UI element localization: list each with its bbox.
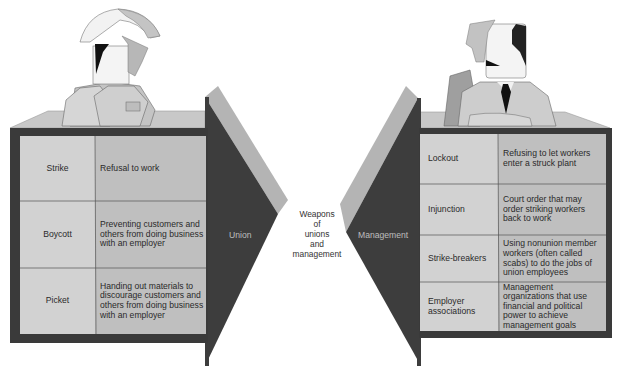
diagram-title: Weapons of unions and management	[286, 209, 348, 259]
management-term-employer-associations: Employer associations	[420, 282, 498, 331]
management-desc-employer-associations: Management organizations that use financ…	[499, 282, 606, 331]
title-line: and	[286, 239, 348, 249]
management-desc-injunction: Court order that may order striking work…	[499, 184, 606, 235]
management-term-injunction: Injunction	[420, 184, 498, 235]
union-desc-strike: Refusal to work	[96, 136, 206, 201]
management-arrow-label: Management	[358, 230, 408, 240]
union-term-picket: Picket	[20, 268, 95, 334]
union-desc-picket: Handing out materials to discourage cust…	[96, 268, 206, 334]
union-worker-figure	[62, 9, 160, 126]
union-desc-boycott: Preventing customers and others from doi…	[96, 201, 206, 268]
title-line: management	[286, 249, 348, 259]
union-term-boycott: Boycott	[20, 201, 95, 268]
management-term-strike-breakers: Strike-breakers	[420, 235, 498, 282]
management-desc-strike-breakers: Using nonunion member workers (often cal…	[499, 235, 606, 282]
management-desc-lockout: Refusing to let workers enter a struck p…	[499, 134, 606, 184]
union-arrow-label: Union	[229, 230, 251, 240]
manager-figure	[444, 20, 556, 126]
management-term-lockout: Lockout	[420, 134, 498, 184]
title-line: unions	[286, 229, 348, 239]
title-line: of	[286, 219, 348, 229]
title-line: Weapons	[286, 209, 348, 219]
union-term-strike: Strike	[20, 136, 95, 201]
